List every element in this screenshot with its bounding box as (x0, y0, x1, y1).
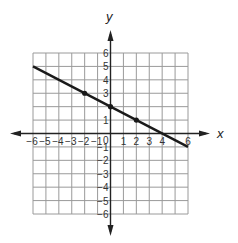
y-tick-label: 4 (103, 75, 109, 86)
y-tick-label: 5 (103, 61, 109, 72)
y-tick-label: 6 (103, 48, 109, 59)
coordinate-plane: −6−5−4−3−2−11234665431−1−2−3−4−5−60 x y (0, 0, 238, 243)
x-tick-label: −6 (26, 136, 38, 147)
x-tick-label: 3 (146, 136, 152, 147)
y-tick-label: −5 (97, 196, 109, 207)
y-tick-label: 3 (103, 88, 109, 99)
marked-point (82, 91, 87, 96)
y-tick-label: 1 (103, 115, 109, 126)
x-tick-label: 4 (159, 136, 165, 147)
y-axis-arrow-down (108, 225, 114, 236)
y-tick-label: −6 (97, 209, 109, 220)
marked-point (108, 104, 113, 109)
origin-label: 0 (103, 135, 109, 146)
x-tick-label: −4 (52, 136, 64, 147)
x-axis-label: x (216, 126, 224, 141)
x-tick-label: −2 (78, 136, 90, 147)
x-axis-arrow-left (10, 131, 21, 137)
x-axis-arrow-right (199, 131, 210, 137)
y-tick-label: −4 (97, 182, 109, 193)
y-tick-label: −2 (97, 155, 109, 166)
marked-point (134, 117, 139, 122)
axes (10, 30, 210, 236)
y-tick-label: −3 (97, 169, 109, 180)
x-tick-label: 1 (121, 136, 127, 147)
y-axis-label: y (105, 9, 114, 24)
y-axis-arrow-up (108, 30, 114, 41)
x-tick-label: 2 (134, 136, 140, 147)
x-tick-label: −3 (65, 136, 77, 147)
x-tick-label: −5 (39, 136, 51, 147)
